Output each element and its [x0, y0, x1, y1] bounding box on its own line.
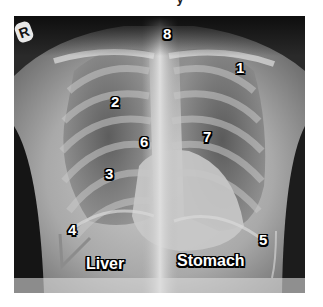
label-8: 8 — [163, 26, 171, 41]
chest-xray-image: R 1 2 3 4 5 6 7 8 Liver Stomach — [14, 16, 305, 293]
label-stomach: Stomach — [177, 253, 245, 269]
label-7: 7 — [203, 129, 211, 144]
label-1: 1 — [236, 60, 244, 75]
label-liver: Liver — [86, 256, 124, 272]
xray-graphic — [14, 16, 305, 293]
label-2: 2 — [111, 94, 119, 109]
label-6: 6 — [140, 134, 148, 149]
figure-caption-partial: y — [120, 0, 240, 5]
label-4: 4 — [68, 222, 76, 237]
label-3: 3 — [105, 166, 113, 181]
label-5: 5 — [259, 232, 267, 247]
